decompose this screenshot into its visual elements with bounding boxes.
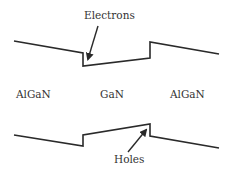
region-label-algan-left: AlGaN	[15, 88, 51, 100]
band-diagram: Electrons AlGaN GaN AlGaN Holes	[0, 0, 231, 170]
electrons-arrow	[88, 26, 98, 59]
conduction-band-line	[14, 41, 219, 66]
holes-arrow	[128, 130, 146, 152]
holes-label: Holes	[114, 153, 144, 165]
region-label-algan-right: AlGaN	[169, 88, 205, 100]
electrons-label: Electrons	[84, 9, 135, 21]
valence-band-line	[14, 124, 219, 148]
region-label-gan: GaN	[100, 88, 124, 100]
